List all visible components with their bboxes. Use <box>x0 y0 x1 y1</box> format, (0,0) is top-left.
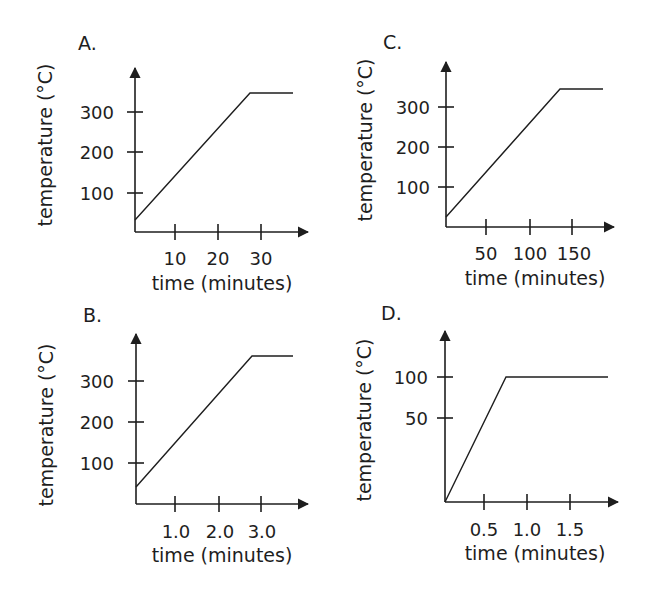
panel-d-xtick-1-5: 1.5 <box>556 519 585 540</box>
panel-a-xtick-30: 30 <box>250 248 273 269</box>
panel-b: B. temperature (°C) 300 200 100 1.0 2.0 … <box>35 304 308 566</box>
panel-d-y-ticks: 100 50 <box>394 367 453 429</box>
panel-c-xtick-150: 150 <box>557 243 591 264</box>
panel-a-y-ticks: 300 200 100 <box>80 102 143 204</box>
panel-d-heating-curve <box>445 377 608 502</box>
panel-c: C. temperature (°C) 300 200 100 50 100 1… <box>354 31 614 289</box>
panel-c-xtick-100: 100 <box>513 243 547 264</box>
panel-c-ytick-100: 100 <box>396 177 430 198</box>
panel-b-ytick-100: 100 <box>80 453 114 474</box>
panel-b-x-ticks: 1.0 2.0 3.0 <box>162 496 277 542</box>
panel-d-ytick-100: 100 <box>394 367 428 388</box>
panel-a-label: A. <box>78 32 97 54</box>
panel-b-y-axis-label: temperature (°C) <box>35 343 57 506</box>
panel-b-xtick-3: 3.0 <box>248 521 277 542</box>
panel-b-ytick-300: 300 <box>80 371 114 392</box>
panel-d-xtick-0-5: 0.5 <box>470 519 499 540</box>
panel-b-x-axis-label: time (minutes) <box>152 544 293 566</box>
panel-c-ytick-200: 200 <box>396 137 430 158</box>
panel-c-y-axis-label: temperature (°C) <box>354 58 376 221</box>
panel-a-xtick-20: 20 <box>207 248 230 269</box>
panel-c-x-ticks: 50 100 150 <box>475 219 592 264</box>
panel-d-x-ticks: 0.5 1.0 1.5 <box>470 494 585 540</box>
panel-c-heating-curve <box>446 89 603 217</box>
panel-c-ytick-300: 300 <box>396 97 430 118</box>
panel-a-x-axis-label: time (minutes) <box>152 272 293 294</box>
panel-b-xtick-2: 2.0 <box>206 521 235 542</box>
panel-b-label: B. <box>83 304 102 326</box>
panel-a-xtick-10: 10 <box>164 248 187 269</box>
panel-d-ytick-50: 50 <box>405 408 428 429</box>
panel-b-ytick-200: 200 <box>80 412 114 433</box>
panel-a-heating-curve <box>135 93 293 220</box>
panel-a-y-axis-label: temperature (°C) <box>34 63 56 226</box>
panel-a: A. temperature (°C) 300 200 100 10 20 30… <box>34 32 308 294</box>
panel-d: D. temperature (°C) 100 50 0.5 1.0 1.5 t… <box>353 302 618 564</box>
panel-d-label: D. <box>381 302 402 324</box>
panel-a-ytick-200: 200 <box>80 142 114 163</box>
panel-b-heating-curve <box>136 356 293 487</box>
figure-four-panel-heating-curves: A. temperature (°C) 300 200 100 10 20 30… <box>0 0 655 598</box>
panel-a-ytick-300: 300 <box>80 102 114 123</box>
panel-b-y-ticks: 300 200 100 <box>80 371 144 474</box>
panel-d-y-axis-label: temperature (°C) <box>353 338 375 501</box>
panel-c-label: C. <box>383 31 402 53</box>
panel-b-xtick-1: 1.0 <box>162 521 191 542</box>
panel-c-xtick-50: 50 <box>475 243 498 264</box>
panel-a-x-ticks: 10 20 30 <box>164 224 273 269</box>
panel-c-x-axis-label: time (minutes) <box>465 267 606 289</box>
panel-d-x-axis-label: time (minutes) <box>465 542 606 564</box>
panel-a-ytick-100: 100 <box>80 183 114 204</box>
panel-d-xtick-1-0: 1.0 <box>513 519 542 540</box>
